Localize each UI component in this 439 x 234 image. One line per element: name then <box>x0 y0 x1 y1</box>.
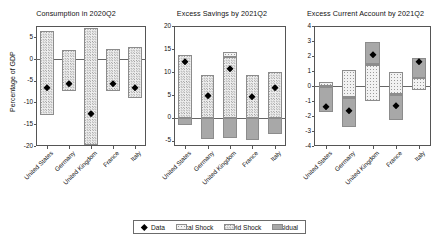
x-tick-mark <box>275 146 276 149</box>
y-tick-label: -5 <box>152 137 171 143</box>
bar-segment-residual <box>268 118 281 134</box>
bar-segment-covid-shock <box>365 64 379 66</box>
y-tick-label: -2 <box>292 113 311 119</box>
y-tick-mark <box>312 26 315 27</box>
x-tick-mark <box>135 146 136 149</box>
y-tick-label: 2 <box>292 53 311 59</box>
y-tick-mark <box>172 49 175 50</box>
x-tick-mark <box>396 146 397 149</box>
y-tick-label: -3 <box>292 128 311 134</box>
x-tick-mark <box>419 146 420 149</box>
y-tick-label: 15 <box>152 46 171 52</box>
y-tick-mark <box>312 131 315 132</box>
x-tick-mark <box>230 146 231 149</box>
panel-title: Excess Savings by 2021Q2 <box>152 9 292 18</box>
bar-segment-residual <box>223 118 236 139</box>
x-tick-mark <box>69 146 70 149</box>
bar-segment-fiscal-shock <box>223 52 236 57</box>
y-tick-label: 3 <box>292 38 311 44</box>
bar-segment-fiscal-shock <box>389 72 403 95</box>
x-tick-label-united-states: United States <box>286 150 333 197</box>
x-tick-label-italy: Italy <box>96 150 143 197</box>
y-tick-mark <box>312 116 315 117</box>
bar-segment-residual <box>201 118 214 140</box>
y-tick-mark <box>34 102 37 103</box>
y-tick-label: 5 <box>152 92 171 98</box>
y-tick-label: 20 <box>152 23 171 29</box>
y-tick-mark <box>172 141 175 142</box>
bar-segment-covid-shock <box>84 28 97 145</box>
x-tick-label-italy: Italy <box>235 150 282 197</box>
panel-title: Consumption in 2020Q2 <box>0 9 152 18</box>
bar-segment-residual <box>178 118 191 126</box>
y-tick-mark <box>172 95 175 96</box>
y-tick-mark <box>34 146 37 147</box>
x-tick-mark <box>373 146 374 149</box>
x-tick-label-united-kingdom: United Kingdom <box>333 150 380 197</box>
y-tick-mark <box>312 71 315 72</box>
y-tick-mark <box>312 101 315 102</box>
y-tick-label: -1 <box>292 98 311 104</box>
y-tick-mark <box>312 146 315 147</box>
y-tick-label: 10 <box>152 69 171 75</box>
chart-panel-1: Consumption in 2020Q2Percentage of GDP50… <box>0 0 152 186</box>
y-tick-label: 5 <box>14 34 33 40</box>
bar-segment-covid-shock <box>40 31 53 114</box>
y-tick-mark <box>312 56 315 57</box>
y-tick-mark <box>172 26 175 27</box>
y-tick-label: 0 <box>152 114 171 120</box>
y-tick-label: -4 <box>292 143 311 149</box>
y-tick-label: -20 <box>14 143 33 149</box>
y-tick-label: 0 <box>14 56 33 62</box>
y-tick-label: 0 <box>292 83 311 89</box>
x-tick-label-italy: Italy <box>380 150 427 197</box>
y-tick-label: 1 <box>292 68 311 74</box>
y-tick-mark <box>312 41 315 42</box>
chart-panel-2: Excess Savings by 2021Q220151050-5United… <box>152 0 292 186</box>
x-tick-mark <box>252 146 253 149</box>
y-tick-mark <box>34 124 37 125</box>
x-tick-mark <box>208 146 209 149</box>
x-tick-mark <box>349 146 350 149</box>
bar-segment-fiscal-shock <box>342 70 356 98</box>
y-tick-mark <box>172 72 175 73</box>
bar-segment-fiscal-shock <box>365 64 379 101</box>
x-tick-mark <box>185 146 186 149</box>
y-tick-label: 4 <box>292 23 311 29</box>
y-tick-label: -15 <box>14 121 33 127</box>
bar-segment-covid-shock <box>268 72 281 118</box>
x-tick-mark <box>47 146 48 149</box>
x-tick-mark <box>326 146 327 149</box>
y-tick-label: -10 <box>14 99 33 105</box>
y-tick-mark <box>34 37 37 38</box>
x-tick-label-france: France <box>356 150 403 197</box>
figure-root: Consumption in 2020Q2Percentage of GDP50… <box>0 0 439 211</box>
x-tick-mark <box>91 146 92 149</box>
panel-title: Excess Current Account by 2021Q2 <box>292 9 439 18</box>
y-tick-label: -5 <box>14 77 33 83</box>
y-tick-mark <box>34 81 37 82</box>
x-tick-mark <box>113 146 114 149</box>
chart-panel-3: Excess Current Account by 2021Q243210-1-… <box>292 0 439 186</box>
bar-segment-residual <box>246 118 259 140</box>
